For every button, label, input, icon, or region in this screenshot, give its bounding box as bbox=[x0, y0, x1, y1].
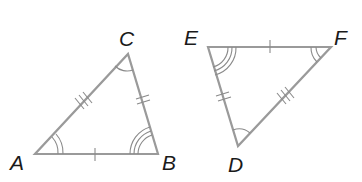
vertex-label-c: C bbox=[119, 27, 135, 50]
triangle-def-outline bbox=[208, 47, 331, 146]
triangle-def: E F D bbox=[184, 26, 348, 176]
triangle-abc: A B C bbox=[8, 27, 176, 174]
vertex-label-e: E bbox=[184, 26, 199, 49]
side-bc-ticks bbox=[136, 95, 150, 104]
angle-a-arcs bbox=[52, 134, 63, 154]
vertex-label-f: F bbox=[334, 26, 348, 49]
congruent-triangles-diagram: A B C E F D bbox=[0, 0, 362, 182]
vertex-label-d: D bbox=[228, 153, 243, 176]
angle-e-arcs bbox=[213, 47, 236, 75]
vertex-label-a: A bbox=[8, 151, 24, 174]
vertex-label-b: B bbox=[162, 151, 176, 174]
angle-c-arc bbox=[115, 66, 133, 71]
angle-d-arc bbox=[233, 129, 250, 133]
angle-b-arcs bbox=[130, 127, 152, 154]
